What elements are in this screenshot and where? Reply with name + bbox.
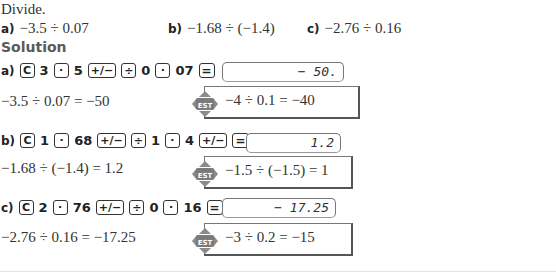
keystroke-sequence-b: b) C 1 · 68 +/− ÷ 1 · 4 +/− = (1, 133, 249, 148)
keystroke-sequence-c: c) C 2 · 76 +/− ÷ 0 · 16 = (1, 200, 223, 215)
key-decimal: · (155, 63, 170, 78)
key-digit: 76 (73, 200, 91, 215)
key-digit: 5 (74, 63, 83, 78)
svg-text:EST: EST (198, 239, 213, 247)
calculator-display-a: − 50. (222, 62, 344, 82)
est-estimate-icon: EST (191, 160, 219, 188)
key-sign-change: +/− (199, 133, 227, 148)
key-sign-change: +/− (88, 63, 116, 78)
key-digit: 3 (40, 63, 49, 78)
key-equals: = (199, 63, 215, 78)
key-clear: C (20, 133, 35, 148)
estimate-box-c: EST −3 ÷ 0.2 = −15 (205, 223, 353, 256)
estimate-box-b: EST −1.5 ÷ (−1.5) = 1 (205, 156, 353, 189)
estimate-a: −4 ÷ 0.1 = −40 (225, 92, 315, 109)
key-sign-change: +/− (96, 200, 124, 215)
keystroke-sequence-a: a) C 3 · 5 +/− ÷ 0 · 07 = (1, 63, 215, 78)
key-decimal: · (165, 133, 180, 148)
key-equals: = (207, 200, 223, 215)
estimate-b: −1.5 ÷ (−1.5) = 1 (225, 162, 329, 179)
problem-b-expression: −1.68 ÷ (−1.4) (187, 20, 275, 36)
result-c: −2.76 ÷ 0.16 = −17.25 (1, 229, 136, 246)
key-digit: 16 (183, 200, 201, 215)
key-divide: ÷ (121, 63, 136, 78)
key-divide: ÷ (129, 200, 144, 215)
key-digit: 4 (185, 133, 194, 148)
estimate-box-a: EST −4 ÷ 0.1 = −40 (205, 86, 360, 119)
key-sign-change: +/− (97, 133, 125, 148)
key-decimal: · (54, 133, 69, 148)
key-digit: 07 (175, 63, 193, 78)
key-decimal: · (53, 200, 68, 215)
result-a: −3.5 ÷ 0.07 = −50 (1, 93, 110, 110)
problem-c-expression: −2.76 ÷ 0.16 (325, 20, 402, 36)
key-decimal: · (163, 200, 178, 215)
problem-a-expression: −3.5 ÷ 0.07 (20, 20, 89, 36)
svg-text:EST: EST (198, 102, 213, 110)
svg-text:EST: EST (198, 172, 213, 180)
est-estimate-icon: EST (191, 90, 219, 118)
problem-c-label: c) (307, 22, 320, 36)
part-c-label: c) (1, 201, 14, 215)
key-decimal: · (54, 63, 69, 78)
key-clear: C (20, 63, 35, 78)
part-a-label: a) (1, 64, 15, 78)
key-clear: C (19, 200, 34, 215)
key-digit: 1 (151, 133, 160, 148)
solution-heading: Solution (1, 39, 67, 55)
key-digit: 2 (39, 200, 48, 215)
calculator-display-c: − 17.25 (222, 198, 336, 218)
problem-b-label: b) (168, 22, 182, 36)
problem-c: c)−2.76 ÷ 0.16 (307, 19, 401, 37)
key-digit: 68 (74, 133, 92, 148)
key-divide: ÷ (131, 133, 146, 148)
problem-a-label: a) (1, 22, 15, 36)
est-estimate-icon: EST (191, 227, 219, 255)
key-digit: 1 (40, 133, 49, 148)
key-digit: 0 (141, 63, 150, 78)
bottom-divider (0, 271, 556, 272)
problem-b: b)−1.68 ÷ (−1.4) (168, 19, 275, 37)
problem-a: a)−3.5 ÷ 0.07 (1, 19, 89, 37)
part-b-label: b) (1, 134, 15, 148)
result-b: −1.68 ÷ (−1.4) = 1.2 (1, 160, 123, 177)
key-digit: 0 (149, 200, 158, 215)
estimate-c: −3 ÷ 0.2 = −15 (225, 229, 315, 246)
calculator-display-b: 1.2 (246, 133, 341, 153)
instruction-text: Divide. (1, 1, 46, 18)
